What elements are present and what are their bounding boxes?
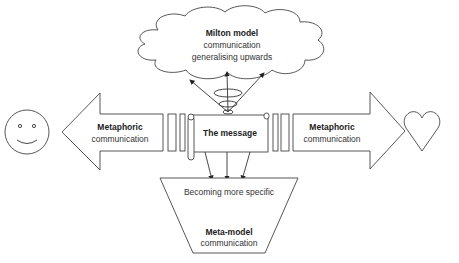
left-metaphoric-arrow: Metaphoric communication (62, 93, 163, 170)
right-bar-1 (273, 114, 278, 151)
funnel-line-2: communication (200, 238, 257, 248)
diagram-canvas: Milton model communication generalising … (0, 0, 459, 263)
right-bar-2 (281, 114, 289, 151)
cloud-line-2: communication (203, 40, 260, 50)
funnel-title: Meta-model (205, 227, 252, 237)
funnel-top-label: Becoming more specific (184, 187, 275, 197)
milton-model-cloud: Milton model communication generalising … (138, 6, 324, 79)
heart-icon (404, 112, 440, 151)
cloud-line-3: generalising upwards (192, 52, 272, 62)
smiley-face-icon (5, 110, 49, 154)
message-label: The message (203, 128, 257, 138)
right-arrow-line-1: Metaphoric (309, 122, 355, 132)
meta-model-funnel: Becoming more specific Meta-model commun… (160, 178, 298, 253)
right-metaphoric-arrow: Metaphoric communication (293, 92, 405, 169)
specific-arrows (205, 152, 250, 180)
cloud-title: Milton model (206, 28, 258, 38)
left-bar-1 (168, 114, 176, 151)
right-arrow-line-2: communication (303, 134, 360, 144)
message-scroll: The message (188, 113, 269, 160)
left-bar-2 (180, 114, 185, 151)
left-arrow-line-1: Metaphoric (97, 122, 143, 132)
left-arrow-line-2: communication (91, 134, 148, 144)
